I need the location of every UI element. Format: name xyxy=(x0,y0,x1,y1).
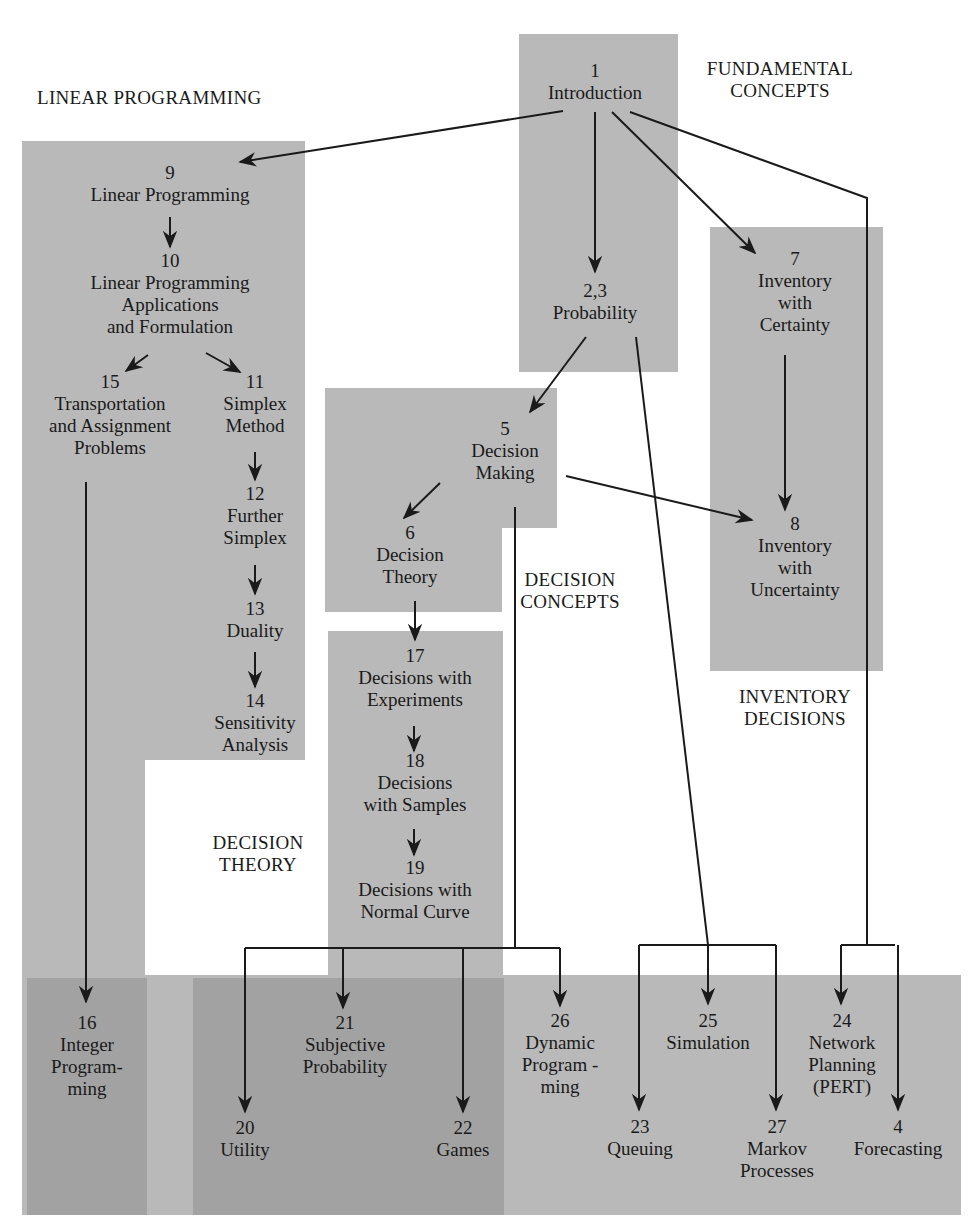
chapter-title: Subjective xyxy=(280,1034,410,1056)
chapter-title: Inventory xyxy=(725,535,865,557)
node-games: 22 Games xyxy=(423,1117,503,1161)
chapter-title: Linear Programming xyxy=(60,272,280,294)
chapter-title: Normal Curve xyxy=(335,901,495,923)
chapter-title: Utility xyxy=(205,1139,285,1161)
chapter-title: Analysis xyxy=(195,734,315,756)
chapter-title: with xyxy=(730,292,860,314)
chapter-title: Decisions xyxy=(335,772,495,794)
chapter-title: ming xyxy=(30,1078,144,1100)
chapter-number: 25 xyxy=(650,1010,766,1032)
chapter-title: Simulation xyxy=(650,1032,766,1054)
node-forecasting: 4 Forecasting xyxy=(838,1116,958,1160)
node-inventory-certainty: 7 Inventory with Certainty xyxy=(730,248,860,336)
chapter-title: Introduction xyxy=(500,82,690,104)
chapter-title: (PERT) xyxy=(790,1076,894,1098)
group-label-inventory-decisions: INVENTORY DECISIONS xyxy=(700,686,890,730)
chapter-title: Making xyxy=(445,462,565,484)
chapter-number: 12 xyxy=(205,483,305,505)
chapter-number: 22 xyxy=(423,1117,503,1139)
chapter-number: 11 xyxy=(205,371,305,393)
chapter-number: 8 xyxy=(725,513,865,535)
node-transportation: 15 Transportation and Assignment Problem… xyxy=(24,371,196,459)
chapter-title: Integer xyxy=(30,1034,144,1056)
group-label-line: DECISION xyxy=(500,569,640,591)
group-label-fundamental-concepts: FUNDAMENTAL CONCEPTS xyxy=(690,58,870,102)
chapter-title: Decision xyxy=(445,440,565,462)
group-label-line: FUNDAMENTAL xyxy=(690,58,870,80)
chapter-number: 9 xyxy=(70,162,270,184)
chapter-title: ming xyxy=(510,1076,610,1098)
group-label-line: DECISION xyxy=(188,832,328,854)
chapter-title: Program - xyxy=(510,1054,610,1076)
chapter-number: 18 xyxy=(335,750,495,772)
group-label-line: LINEAR PROGRAMMING xyxy=(37,87,357,109)
chapter-title: Processes xyxy=(725,1160,829,1182)
node-markov-processes: 27 Markov Processes xyxy=(725,1116,829,1182)
chapter-number: 5 xyxy=(445,418,565,440)
chapter-number: 21 xyxy=(280,1012,410,1034)
chapter-title: Method xyxy=(205,415,305,437)
node-dynamic-programming: 26 Dynamic Program - ming xyxy=(510,1010,610,1098)
chapter-title: Dynamic xyxy=(510,1032,610,1054)
chapter-title: Further xyxy=(205,505,305,527)
chapter-number: 16 xyxy=(30,1012,144,1034)
chapter-title: Planning xyxy=(790,1054,894,1076)
chapter-title: Decision xyxy=(355,544,465,566)
node-simulation: 25 Simulation xyxy=(650,1010,766,1054)
node-queuing: 23 Queuing xyxy=(590,1116,690,1160)
node-decision-theory: 6 Decision Theory xyxy=(355,522,465,588)
chapter-title: Duality xyxy=(205,620,305,642)
chapter-number: 1 xyxy=(500,60,690,82)
chapter-title: Problems xyxy=(24,437,196,459)
chapter-number: 6 xyxy=(355,522,465,544)
chapter-number: 26 xyxy=(510,1010,610,1032)
chapter-title: Linear Programming xyxy=(70,184,270,206)
chapter-title: Uncertainty xyxy=(725,579,865,601)
node-introduction: 1 Introduction xyxy=(500,60,690,104)
group-label-decision-concepts: DECISION CONCEPTS xyxy=(500,569,640,613)
chapter-title: Simplex xyxy=(205,393,305,415)
node-probability: 2,3 Probability xyxy=(500,280,690,324)
chapter-number: 14 xyxy=(195,690,315,712)
node-network-planning: 24 Network Planning (PERT) xyxy=(790,1010,894,1098)
node-further-simplex: 12 Further Simplex xyxy=(205,483,305,549)
chapter-number: 23 xyxy=(590,1116,690,1138)
chapter-title: Applications xyxy=(60,294,280,316)
node-decision-making: 5 Decision Making xyxy=(445,418,565,484)
node-decisions-samples: 18 Decisions with Samples xyxy=(335,750,495,816)
group-label-line: DECISIONS xyxy=(700,708,890,730)
node-subjective-probability: 21 Subjective Probability xyxy=(280,1012,410,1078)
chapter-number: 27 xyxy=(725,1116,829,1138)
node-integer-programming: 16 Integer Program- ming xyxy=(30,1012,144,1100)
chapter-title: Sensitivity xyxy=(195,712,315,734)
chapter-title: Queuing xyxy=(590,1138,690,1160)
chapter-title: and Assignment xyxy=(24,415,196,437)
node-inventory-uncertainty: 8 Inventory with Uncertainty xyxy=(725,513,865,601)
chapter-title: Certainty xyxy=(730,314,860,336)
chapter-number: 19 xyxy=(335,857,495,879)
chapter-number: 7 xyxy=(730,248,860,270)
chapter-title: Network xyxy=(790,1032,894,1054)
chapter-title: Decisions with xyxy=(335,667,495,689)
chapter-title: Forecasting xyxy=(838,1138,958,1160)
chapter-title: Probability xyxy=(500,302,690,324)
group-label-line: CONCEPTS xyxy=(690,80,870,102)
chapter-number: 20 xyxy=(205,1117,285,1139)
node-decisions-normal-curve: 19 Decisions with Normal Curve xyxy=(335,857,495,923)
group-label-decision-theory: DECISION THEORY xyxy=(188,832,328,876)
node-lp-applications: 10 Linear Programming Applications and F… xyxy=(60,250,280,338)
group-label-linear-programming: LINEAR PROGRAMMING xyxy=(37,87,357,109)
chapter-number: 17 xyxy=(335,645,495,667)
chapter-number: 4 xyxy=(838,1116,958,1138)
chapter-title: Markov xyxy=(725,1138,829,1160)
chapter-title: with Samples xyxy=(335,794,495,816)
chapter-title: Transportation xyxy=(24,393,196,415)
chapter-title: Experiments xyxy=(335,689,495,711)
node-duality: 13 Duality xyxy=(205,598,305,642)
chapter-number: 2,3 xyxy=(500,280,690,302)
node-sensitivity-analysis: 14 Sensitivity Analysis xyxy=(195,690,315,756)
group-label-line: THEORY xyxy=(188,854,328,876)
group-label-line: CONCEPTS xyxy=(500,591,640,613)
node-linear-programming: 9 Linear Programming xyxy=(70,162,270,206)
chapter-title: Games xyxy=(423,1139,503,1161)
